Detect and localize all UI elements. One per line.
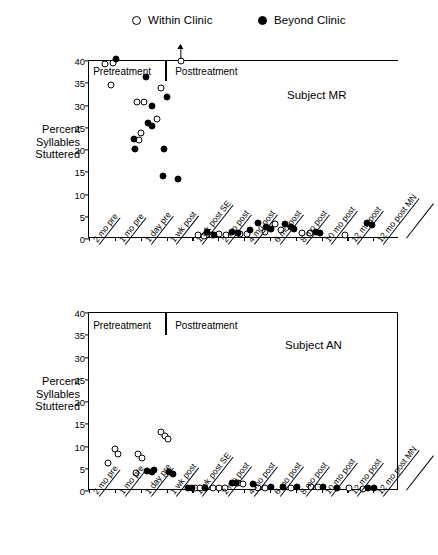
y-tick-label-30: 30 [74, 100, 89, 111]
y-axis-title-line3: Stuttered [8, 148, 80, 161]
phase-label-posttreatment-bottom: Posttreatment [175, 320, 237, 331]
y-tick-label-20: 20 [74, 145, 89, 156]
data-point-within-clinic [107, 82, 114, 89]
y-tick-label-30: 30 [74, 352, 89, 363]
data-point-within-clinic [164, 436, 171, 443]
phase-label-posttreatment-top: Posttreatment [175, 66, 237, 77]
y-tick-label-25: 25 [74, 122, 89, 133]
data-point-beyond-clinic [169, 471, 176, 478]
y-axis-title-line1-bottom: Percent [8, 375, 80, 388]
legend-label-within-clinic: Within Clinic [148, 14, 213, 26]
legend-item-beyond-clinic: Beyond Clinic [258, 14, 346, 26]
y-axis-title-line2-bottom: Syllables [8, 388, 80, 401]
y-axis-title-bottom: Percent Syllables Stuttered [8, 375, 80, 413]
y-tick-label-5: 5 [80, 211, 89, 222]
panel-subject-mr: Percent Syllables Stuttered 051015202530… [0, 48, 438, 283]
legend-label-beyond-clinic: Beyond Clinic [274, 14, 346, 26]
y-tick-label-15: 15 [74, 167, 89, 178]
treatment-phase-divider [165, 313, 166, 335]
treatment-phase-divider [165, 61, 166, 81]
legend: Within Clinic Beyond Clinic [0, 14, 438, 34]
y-tick-label-40: 40 [74, 56, 89, 67]
y-axis-title-line3-bottom: Stuttered [8, 400, 80, 413]
legend-item-within-clinic: Within Clinic [132, 14, 213, 26]
data-point-beyond-clinic [149, 122, 156, 129]
data-point-beyond-clinic [160, 145, 167, 152]
y-tick-label-40: 40 [74, 308, 89, 319]
data-point-beyond-clinic [317, 229, 324, 236]
y-axis-title-line1: Percent [8, 123, 80, 136]
data-point-beyond-clinic [159, 172, 166, 179]
data-point-beyond-clinic [149, 102, 156, 109]
data-point-beyond-clinic [164, 94, 171, 101]
data-point-within-clinic [158, 85, 165, 92]
data-point-within-clinic [114, 451, 121, 458]
panel-subject-an: Percent Syllables Stuttered 051015202530… [0, 300, 438, 535]
data-point-within-clinic [239, 480, 246, 487]
subject-title-top: Subject MR [287, 89, 346, 101]
data-point-beyond-clinic [131, 135, 138, 142]
figure: Within Clinic Beyond Clinic Percent Syll… [0, 0, 438, 555]
phase-label-pretreatment-bottom: Pretreatment [93, 320, 151, 331]
subject-title-bottom: Subject AN [285, 339, 342, 351]
data-point-beyond-clinic [268, 225, 275, 232]
y-axis-title-line2: Syllables [8, 136, 80, 149]
y-axis-title-top: Percent Syllables Stuttered [8, 123, 80, 161]
x-axis-labels-top: 2 mo pre1 mo pre1 day pre1 wk post1 wk p… [88, 238, 398, 300]
open-circle-icon [132, 16, 141, 25]
data-point-within-clinic [137, 129, 144, 136]
data-point-within-clinic [138, 455, 145, 462]
y-tick-label-15: 15 [74, 419, 89, 430]
data-point-within-clinic [133, 98, 140, 105]
data-point-within-clinic [153, 116, 160, 123]
y-tick-label-25: 25 [74, 374, 89, 385]
y-tick-label-35: 35 [74, 330, 89, 341]
off-scale-arrow-icon [180, 45, 181, 59]
data-point-beyond-clinic [113, 55, 120, 62]
y-tick-label-10: 10 [74, 441, 89, 452]
data-point-within-clinic [140, 99, 147, 106]
data-point-beyond-clinic [131, 146, 138, 153]
data-point-beyond-clinic [175, 176, 182, 183]
y-tick-label-35: 35 [74, 78, 89, 89]
y-tick-label-10: 10 [74, 189, 89, 200]
phase-label-pretreatment-top: Pretreatment [93, 66, 151, 77]
y-tick-label-5: 5 [80, 463, 89, 474]
x-axis-labels-bottom: 2 mo pre1 mo pre1 day pre1 wk post1 wk p… [88, 490, 398, 552]
filled-circle-icon [258, 16, 267, 25]
y-tick-label-20: 20 [74, 397, 89, 408]
